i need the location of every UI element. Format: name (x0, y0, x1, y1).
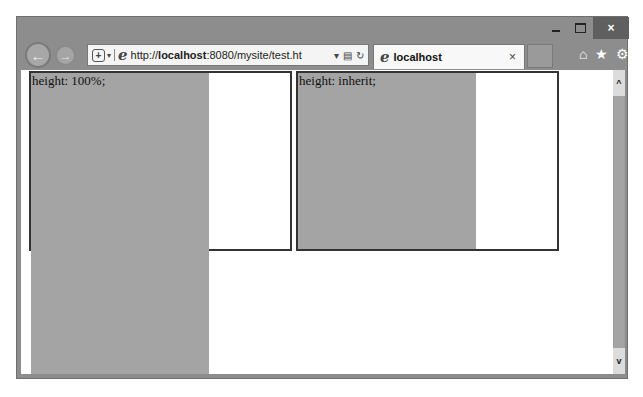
maximize-icon (575, 23, 586, 33)
divider (114, 49, 115, 61)
vertical-scrollbar[interactable]: ^ v (613, 70, 625, 374)
scroll-down-button[interactable]: v (613, 348, 625, 374)
maximize-button[interactable] (569, 17, 591, 39)
minimize-button[interactable] (545, 17, 567, 39)
chevron-down-icon[interactable]: ▾ (107, 51, 111, 60)
url-path: :8080/mysite/test.ht (206, 49, 301, 61)
close-icon: × (607, 21, 614, 35)
inner-fill-inherit (298, 73, 476, 249)
tab-label: localhost (394, 51, 442, 63)
browser-window: × ← → + ▾ e http://localhost:8080/mysite… (16, 16, 628, 379)
star-icon[interactable]: ★ (595, 46, 608, 62)
compatibility-view-icon[interactable]: ▤ (343, 50, 352, 61)
chevron-up-icon: ^ (616, 78, 621, 88)
title-bar: × (17, 17, 627, 41)
ie-logo-icon: e (118, 48, 128, 63)
ie-logo-icon: e (380, 50, 390, 65)
close-window-button[interactable]: × (593, 17, 629, 39)
url-prefix: http:// (131, 49, 159, 61)
box1-label: height: 100%; (32, 73, 105, 89)
scroll-up-button[interactable]: ^ (613, 70, 625, 96)
url-text[interactable]: http://localhost:8080/mysite/test.ht (131, 49, 307, 61)
close-tab-icon[interactable]: × (509, 50, 516, 64)
search-dropdown-icon[interactable]: ▾ (334, 50, 339, 61)
minimize-icon (552, 30, 560, 32)
tab-localhost[interactable]: e localhost × (373, 44, 525, 69)
page-viewport: height: 100%; height: inherit; (21, 70, 613, 374)
scrollbar-thumb[interactable] (614, 96, 624, 348)
toolbar: ← → + ▾ e http://localhost:8080/mysite/t… (17, 41, 627, 69)
address-bar[interactable]: + ▾ e http://localhost:8080/mysite/test.… (87, 44, 369, 66)
box2-label: height: inherit; (299, 73, 376, 89)
gear-icon[interactable]: ⚙ (616, 46, 629, 62)
address-actions: ▾ ▤ ↻ (334, 50, 364, 61)
new-tab-button[interactable] (527, 44, 553, 68)
command-icons: ⌂ ★ ⚙ (579, 46, 629, 62)
chevron-down-icon: v (616, 356, 621, 366)
arrow-left-icon: ← (31, 47, 46, 64)
shield-icon[interactable]: + (92, 49, 105, 62)
home-icon[interactable]: ⌂ (579, 46, 587, 62)
inner-fill-100 (31, 73, 209, 374)
forward-button[interactable]: → (55, 45, 76, 66)
arrow-right-icon: → (60, 49, 72, 63)
url-host: localhost (158, 49, 206, 61)
refresh-icon[interactable]: ↻ (356, 50, 364, 61)
back-button[interactable]: ← (25, 42, 51, 68)
